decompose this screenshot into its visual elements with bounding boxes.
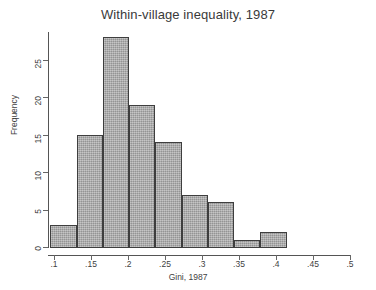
x-axis-tick-label: .45 xyxy=(298,259,328,269)
x-axis-line xyxy=(48,255,350,256)
y-axis-tick xyxy=(43,172,48,173)
y-axis-tick-label: 15 xyxy=(33,134,43,162)
histogram-figure: Within-village inequality, 1987 Frequenc… xyxy=(0,0,376,290)
y-axis-tick xyxy=(43,247,48,248)
histogram-bar xyxy=(50,225,76,249)
x-axis-tick-label: .5 xyxy=(335,259,365,269)
x-axis-title: Gini, 1987 xyxy=(0,272,376,282)
y-axis-tick-label: 25 xyxy=(33,59,43,87)
x-axis-tick-label: .3 xyxy=(187,259,217,269)
x-axis-tick-label: .35 xyxy=(224,259,254,269)
y-axis-tick-label: 20 xyxy=(33,96,43,124)
x-axis-tick-label: .4 xyxy=(261,259,291,269)
y-axis-line xyxy=(48,32,49,248)
y-axis-tick xyxy=(43,97,48,98)
y-axis-tick xyxy=(43,210,48,211)
y-axis-tick-label: 5 xyxy=(33,209,43,237)
histogram-bar xyxy=(260,232,286,248)
x-axis-tick-label: .15 xyxy=(76,259,106,269)
y-axis-tick-label: 10 xyxy=(33,171,43,199)
x-axis-tick-label: .25 xyxy=(150,259,180,269)
y-axis-tick xyxy=(43,135,48,136)
histogram-bar xyxy=(77,135,103,249)
histogram-bar xyxy=(129,105,155,249)
histogram-bar xyxy=(103,37,129,248)
x-axis-tick-label: .2 xyxy=(113,259,143,269)
y-axis-title: Frequency xyxy=(9,65,19,165)
x-axis-tick-label: .1 xyxy=(39,259,69,269)
histogram-bar xyxy=(208,202,234,248)
histogram-bar xyxy=(182,195,208,249)
histogram-bar xyxy=(234,240,260,249)
histogram-bar xyxy=(155,142,181,248)
y-axis-tick xyxy=(43,60,48,61)
plot-area: Frequency Gini, 1987 0510152025 .1.15.2.… xyxy=(0,0,376,290)
